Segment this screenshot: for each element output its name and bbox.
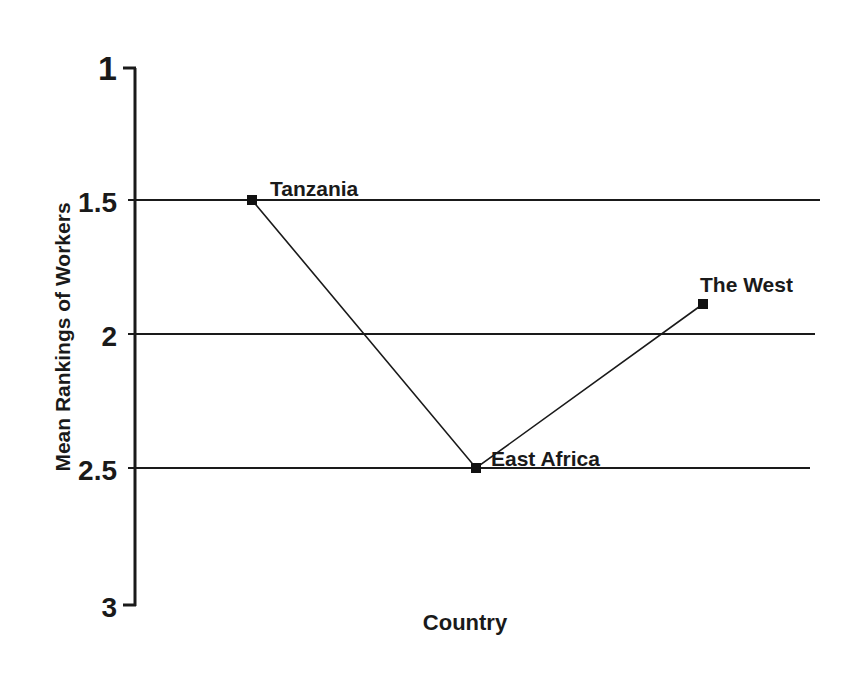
line-chart: 1 1.5 2 2.5 3 Mean Rankings of Workers C… [0,0,859,678]
y-tick-2: 2 [101,321,117,352]
label-the-west: The West [700,273,793,296]
y-tick-2.5: 2.5 [78,455,117,486]
y-tick-labels: 1 1.5 2 2.5 3 [78,49,117,623]
y-tick-1: 1 [98,49,117,87]
marker-the-west [698,299,708,309]
y-axis-title: Mean Rankings of Workers [51,202,74,471]
gridlines [128,200,820,468]
label-tanzania: Tanzania [270,177,359,200]
marker-tanzania [247,195,257,205]
marker-east-africa [471,463,481,473]
label-east-africa: East Africa [491,447,600,470]
x-axis-title: Country [423,610,508,635]
y-tick-3: 3 [101,592,117,623]
y-tick-1.5: 1.5 [78,187,117,218]
y-axis [123,68,136,606]
